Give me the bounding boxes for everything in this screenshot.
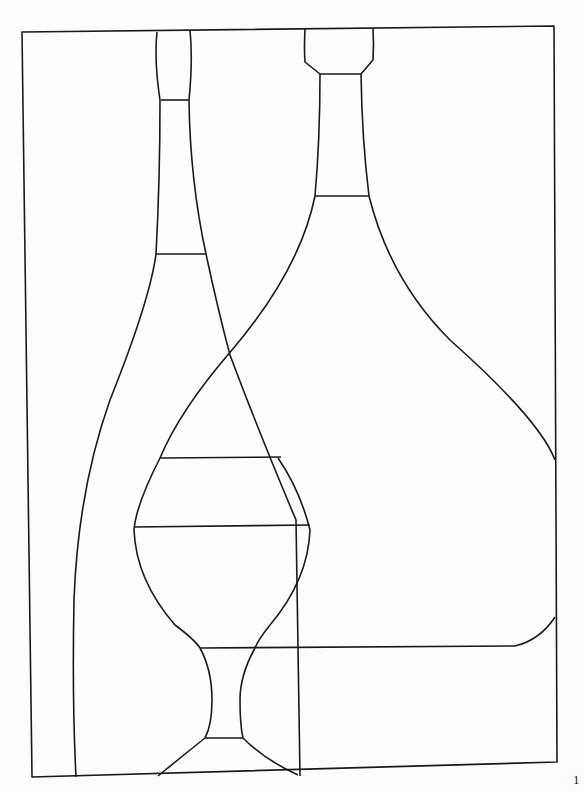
goblet-line-upper <box>160 457 281 458</box>
line-drawing <box>0 0 585 796</box>
right-bottle-cap <box>305 28 374 74</box>
frame <box>22 26 557 777</box>
goblet-line-lower <box>134 525 310 527</box>
goblet-bowl-left <box>134 458 200 648</box>
right-bottle-neck-right <box>361 74 369 196</box>
page-number: 1 <box>573 772 580 788</box>
goblet-stem-right <box>240 648 298 775</box>
left-bottle-right-edge <box>189 30 300 776</box>
right-bottle-left-shoulder <box>160 196 315 458</box>
right-bottle-neck-left <box>315 74 320 196</box>
right-bottle-right-shoulder <box>369 196 555 460</box>
right-bottle-base-line <box>200 617 555 648</box>
goblet-stem-left <box>158 648 212 776</box>
left-bottle-left-edge <box>73 32 160 777</box>
